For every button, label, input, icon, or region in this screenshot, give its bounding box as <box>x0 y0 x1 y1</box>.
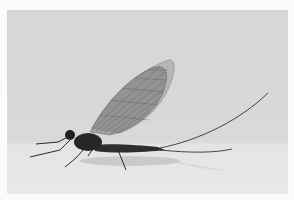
head <box>65 130 75 140</box>
mayfly-illustration <box>7 10 288 194</box>
thorax <box>74 133 102 151</box>
tail-filament <box>160 149 232 152</box>
mayfly-photo <box>7 10 288 194</box>
fore-wing <box>90 67 167 135</box>
tail-filament <box>160 93 268 148</box>
abdomen <box>95 144 165 152</box>
